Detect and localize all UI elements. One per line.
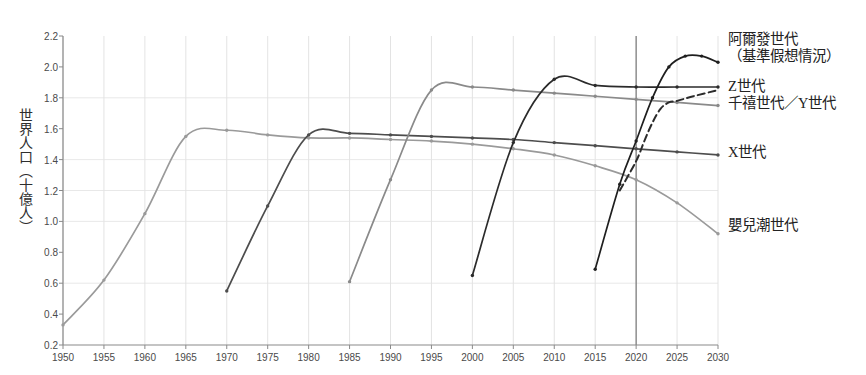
series-marker (389, 138, 392, 141)
series-label-line: 阿爾發世代 (728, 31, 840, 48)
series-marker (471, 136, 474, 139)
series-label-0: 嬰兒潮世代 (728, 217, 798, 234)
x-axis-tick-label: 1960 (134, 352, 156, 363)
series-label-line: Z世代 (728, 78, 765, 95)
series-marker (634, 98, 637, 101)
series-marker (266, 133, 269, 136)
generation-population-chart: 世界人口（十億人） 0.20.40.60.81.01.21.41.61.82.0… (0, 0, 866, 375)
x-axis-tick-label: 2000 (461, 352, 483, 363)
x-axis-tick-label: 1980 (298, 352, 320, 363)
series-marker (102, 278, 105, 281)
series-marker (593, 84, 596, 87)
series-label-1: X世代 (728, 144, 766, 161)
x-axis-tick-label: 2030 (707, 352, 729, 363)
series-marker (651, 96, 654, 99)
series-marker (430, 135, 433, 138)
series-marker (553, 78, 556, 81)
series-marker (675, 201, 678, 204)
y-axis-tick-label: 1.4 (24, 154, 58, 165)
x-axis-tick-label: 1950 (52, 352, 74, 363)
x-axis-tick-label: 2005 (502, 352, 524, 363)
series-marker (553, 91, 556, 94)
series-marker (634, 178, 637, 181)
y-axis-tick-label: 0.6 (24, 278, 58, 289)
series-marker (143, 212, 146, 215)
series-marker (618, 183, 621, 186)
series-marker (593, 268, 596, 271)
series-label-line: 嬰兒潮世代 (728, 217, 798, 234)
series-marker (389, 178, 392, 181)
series-label-line: 千禧世代／Y世代 (728, 95, 836, 112)
series-marker (634, 139, 637, 142)
y-axis-tick-label: 1.2 (24, 185, 58, 196)
x-axis-tick-label: 2020 (625, 352, 647, 363)
series-marker (225, 289, 228, 292)
y-axis-tick-label: 1.6 (24, 123, 58, 134)
series-marker (716, 232, 719, 235)
x-axis-tick-label: 2010 (543, 352, 565, 363)
x-axis-tick-label: 1975 (257, 352, 279, 363)
y-axis-tick-label: 2.2 (24, 31, 58, 42)
y-axis-tick-label: 0.8 (24, 247, 58, 258)
series-marker (675, 150, 678, 153)
series-marker (348, 280, 351, 283)
y-axis-tick-label: 2.0 (24, 61, 58, 72)
series-marker (700, 54, 703, 57)
series-marker (553, 153, 556, 156)
series-marker (684, 54, 687, 57)
x-axis-tick-label: 1955 (93, 352, 115, 363)
series-marker (716, 85, 719, 88)
series-marker (553, 141, 556, 144)
y-axis-tick-label: 1.0 (24, 216, 58, 227)
series-marker (593, 164, 596, 167)
series-marker (307, 133, 310, 136)
x-axis-tick-label: 2025 (666, 352, 688, 363)
x-axis-tick-label: 1970 (216, 352, 238, 363)
series-marker (634, 147, 637, 150)
x-axis-tick-label: 1995 (420, 352, 442, 363)
series-marker (675, 85, 678, 88)
series-label-5: 阿爾發世代（基準假想情況） (728, 31, 840, 65)
x-axis-tick-label: 2015 (584, 352, 606, 363)
series-marker (348, 132, 351, 135)
series-marker (61, 323, 64, 326)
y-axis-tick-label: 0.2 (24, 340, 58, 351)
series-marker (348, 136, 351, 139)
series-marker (266, 204, 269, 207)
series-label-2: 千禧世代／Y世代 (728, 95, 836, 112)
series-label-3: Z世代 (728, 78, 765, 95)
y-axis-tick-label: 1.8 (24, 92, 58, 103)
series-marker (471, 274, 474, 277)
series-marker (389, 133, 392, 136)
series-marker (667, 65, 670, 68)
series-marker (184, 135, 187, 138)
series-label-line: X世代 (728, 144, 766, 161)
x-axis-tick-label: 1990 (379, 352, 401, 363)
series-marker (471, 142, 474, 145)
x-axis-tick-label: 1965 (175, 352, 197, 363)
series-marker (716, 61, 719, 64)
series-marker (634, 85, 637, 88)
series-label-line: （基準假想情況） (728, 48, 840, 65)
series-marker (225, 129, 228, 132)
series-marker (593, 144, 596, 147)
series-2 (348, 82, 720, 283)
series-marker (716, 153, 719, 156)
series-marker (512, 141, 515, 144)
y-axis-tick-label: 0.4 (24, 309, 58, 320)
series-marker (593, 95, 596, 98)
series-line (350, 82, 718, 281)
series-marker (716, 104, 719, 107)
series-marker (512, 88, 515, 91)
series-marker (471, 85, 474, 88)
x-axis-tick-label: 1985 (338, 352, 360, 363)
series-marker (430, 88, 433, 91)
series-marker (430, 139, 433, 142)
y-axis-tick-labels: 0.20.40.60.81.01.21.41.61.82.02.2 (22, 0, 58, 375)
